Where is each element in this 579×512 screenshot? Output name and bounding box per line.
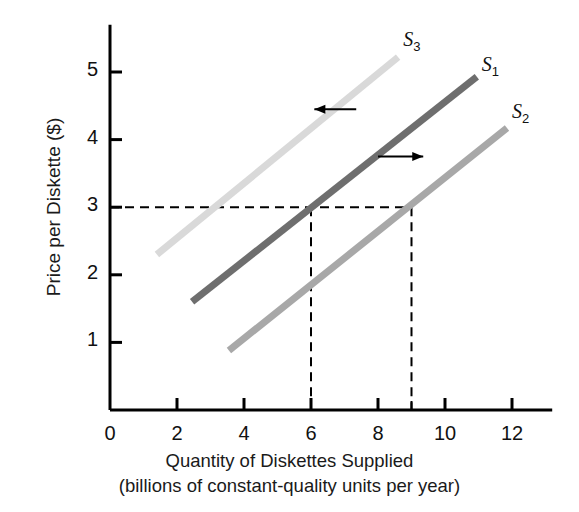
supply-curves-group	[157, 57, 507, 350]
curve-label-S1: S1	[482, 53, 499, 79]
y-tick-label-4: 4	[68, 126, 98, 149]
x-tick-label-6: 6	[291, 422, 331, 445]
rightward-shift-arrow-head	[412, 152, 423, 161]
x-tick-label-8: 8	[358, 422, 398, 445]
x-tick-label-2: 2	[157, 422, 197, 445]
curve-label-S1-text: S	[482, 53, 492, 75]
y-axis-label: Price per Diskette ($)	[43, 57, 65, 357]
curve-label-S2-subscript: 2	[522, 111, 529, 126]
axes-group	[110, 25, 552, 410]
curve-label-S3-subscript: 3	[413, 39, 420, 54]
leftward-shift-arrow-head	[314, 105, 325, 114]
x-tick-label-4: 4	[224, 422, 264, 445]
curve-label-S1-subscript: 1	[492, 64, 499, 79]
x-axis-label-line2: (billions of constant-quality units per …	[0, 473, 579, 498]
y-tick-label-3: 3	[68, 193, 98, 216]
x-tick-label-12: 12	[492, 422, 532, 445]
y-tick-label-5: 5	[68, 58, 98, 81]
x-axis-label-line1: Quantity of Diskettes Supplied	[166, 450, 414, 471]
supply-curve-figure: Price per Diskette ($) Quantity of Diske…	[0, 0, 579, 512]
x-axis-label: Quantity of Diskettes Supplied (billions…	[0, 448, 579, 498]
curve-label-S3-text: S	[403, 28, 413, 50]
x-tick-label-0: 0	[90, 422, 130, 445]
curve-label-S2-text: S	[512, 100, 522, 122]
curve-label-S3: S3	[403, 28, 420, 54]
curve-label-S2: S2	[512, 100, 529, 126]
y-tick-label-1: 1	[68, 328, 98, 351]
supply-curve-S3	[157, 57, 398, 254]
y-tick-label-2: 2	[68, 261, 98, 284]
x-tick-label-10: 10	[425, 422, 465, 445]
